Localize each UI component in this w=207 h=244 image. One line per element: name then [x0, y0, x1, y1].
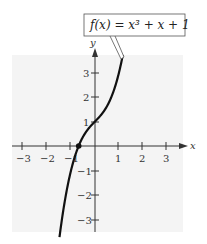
y-tick-label: 2	[83, 92, 89, 103]
x-tick-label: 2	[139, 153, 145, 164]
plot-background	[12, 55, 183, 232]
x-intercept-point	[76, 143, 82, 149]
y-tick-label: 1	[83, 117, 89, 128]
y-tick-label: −3	[77, 215, 92, 226]
function-graph: x y −3 −2 −1 1 2 3 3 2 1 −1 −2 −3 f(x) =…	[0, 0, 207, 244]
x-tick-label: 1	[115, 153, 121, 164]
y-tick-label: 3	[83, 68, 89, 79]
x-tick-label: 3	[163, 153, 169, 164]
y-tick-label: −2	[77, 190, 92, 201]
x-tick-label: −3	[16, 153, 31, 164]
x-axis-arrow-icon	[179, 143, 188, 149]
function-callout-label: f(x) = x³ + x + 1	[89, 18, 190, 32]
y-tick-label: −1	[77, 166, 92, 177]
y-axis-arrow-icon	[92, 48, 98, 57]
x-tick-label: −2	[40, 153, 55, 164]
y-axis-label: y	[89, 37, 96, 48]
x-axis-label: x	[190, 140, 196, 151]
